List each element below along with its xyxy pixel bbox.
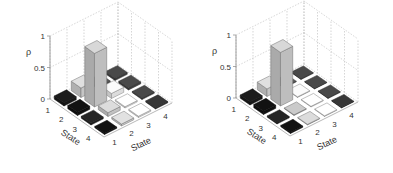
z-tick-label: 1 [41, 32, 46, 41]
row-tick-label: 4 [86, 134, 91, 143]
z-ticks: 00.51 [220, 31, 236, 103]
chart-left: 00.51ρ1234State1234State [0, 0, 196, 173]
col-tick-label: 1 [298, 137, 303, 146]
z-axis-label: ρ [212, 46, 217, 56]
row-tick-label: 1 [232, 105, 237, 114]
bar [85, 40, 107, 107]
bar [105, 66, 127, 81]
bar [81, 110, 103, 125]
bar [301, 93, 323, 107]
z-tick-label: 0 [227, 94, 232, 103]
row-axis-label: State [245, 126, 268, 146]
bar3d-plot-left: 00.51ρ1234State1234State [0, 0, 196, 173]
z-tick-label: 1 [227, 31, 232, 40]
grid [236, 1, 358, 136]
bar [267, 110, 289, 124]
z-tick-label: 0 [41, 95, 46, 104]
col-tick-label: 2 [315, 128, 320, 137]
bar [132, 85, 154, 99]
bar [271, 39, 293, 106]
row-axis-label: State [59, 127, 82, 147]
row-tick-label: 2 [245, 114, 250, 123]
z-tick-label: 0.5 [34, 64, 46, 73]
z-ticks: 00.51 [34, 32, 50, 104]
row-tick-label: 2 [59, 115, 64, 124]
col-tick-label: 1 [112, 138, 117, 147]
z-axis-label: ρ [26, 47, 31, 57]
col-tick-label: 3 [332, 120, 337, 129]
col-tick-label: 3 [146, 121, 151, 130]
chart-right: 00.51ρ1234State1234State [196, 0, 392, 173]
col-tick-label: 4 [163, 112, 168, 121]
col-tick-label: 4 [349, 111, 354, 120]
row-tick-label: 4 [272, 133, 277, 142]
z-tick-label: 0.5 [220, 63, 232, 72]
bar [305, 75, 327, 89]
bar [284, 102, 306, 116]
bar3d-plot-right: 00.51ρ1234State1234State [196, 0, 392, 173]
col-tick-label: 2 [129, 129, 134, 138]
row-tick-label: 1 [46, 106, 51, 115]
